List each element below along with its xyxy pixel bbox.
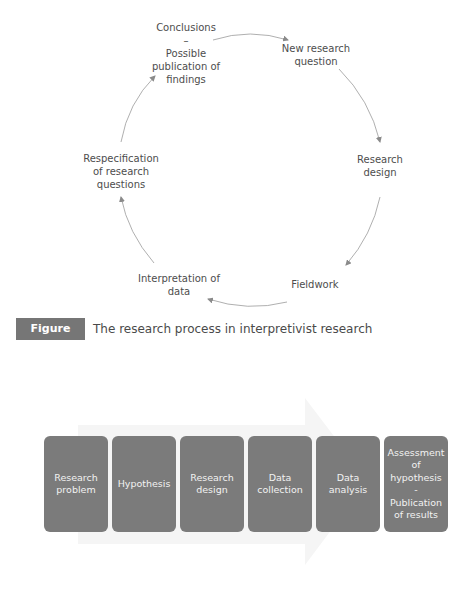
linear-process-steps: Research problem Hypothesis Research des… xyxy=(44,436,448,532)
step-line: Research xyxy=(190,472,234,485)
step-hypothesis: Hypothesis xyxy=(112,436,176,532)
step-line: Research xyxy=(54,472,98,485)
step-line: of xyxy=(411,459,420,472)
step-assessment-publication: Assessment of hypothesis - Publication o… xyxy=(384,436,448,532)
step-line: problem xyxy=(56,484,95,497)
step-line: Data xyxy=(337,472,360,485)
step-line: - xyxy=(414,484,417,497)
step-line: Assessment xyxy=(388,447,445,460)
step-line: analysis xyxy=(329,484,367,497)
step-line: Data xyxy=(269,472,292,485)
step-line: Publication xyxy=(390,497,442,510)
step-research-design: Research design xyxy=(180,436,244,532)
step-line: hypothesis xyxy=(390,472,442,485)
step-line: of results xyxy=(394,509,438,522)
step-line: collection xyxy=(257,484,303,497)
step-research-problem: Research problem xyxy=(44,436,108,532)
step-line: design xyxy=(196,484,228,497)
step-line: Hypothesis xyxy=(118,478,171,491)
step-data-analysis: Data analysis xyxy=(316,436,380,532)
step-data-collection: Data collection xyxy=(248,436,312,532)
